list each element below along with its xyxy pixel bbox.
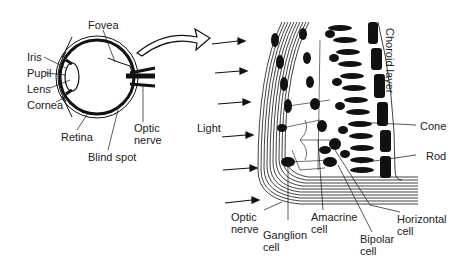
label-horizontal-cell-2: cell [397, 225, 414, 237]
label-bipolar-cell-1: Bipolar [360, 233, 394, 245]
label-fovea: Fovea [88, 19, 119, 31]
light-arrows [212, 38, 259, 203]
label-cornea: Cornea [27, 99, 63, 111]
label-retina-optic-nerve-1: Optic [231, 211, 257, 223]
curved-arrow-icon [137, 29, 210, 56]
label-ganglion-cell-2: cell [263, 241, 280, 253]
label-blind-spot: Blind spot [88, 151, 136, 163]
label-cone: Cone [420, 120, 446, 132]
label-choroid-layer: Choroid layer [384, 28, 396, 93]
label-iris: Iris [27, 51, 42, 63]
label-light: Light [197, 122, 221, 134]
label-lens: Lens [27, 83, 51, 95]
label-eye-optic-nerve-1: Optic [134, 122, 160, 134]
label-bipolar-cell-2: cell [360, 245, 377, 257]
label-eye-optic-nerve-2: nerve [134, 134, 162, 146]
label-ganglion-cell-1: Ganglion [263, 229, 307, 241]
label-horizontal-cell-1: Horizontal [397, 213, 447, 225]
label-retina-optic-nerve-2: nerve [231, 223, 259, 235]
label-pupil: Pupil [27, 67, 51, 79]
label-rod: Rod [426, 150, 446, 162]
label-amacrine-cell-2: cell [311, 223, 328, 235]
label-retina: Retina [61, 131, 93, 143]
label-amacrine-cell-1: Amacrine [311, 211, 357, 223]
